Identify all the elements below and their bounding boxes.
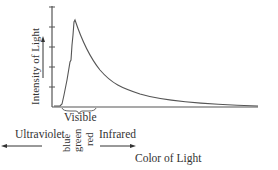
y-arrow-icon	[41, 36, 45, 78]
color-label-red: red	[84, 133, 95, 146]
infrared-arrow-icon	[100, 144, 136, 148]
ultraviolet-label: Ultraviolet	[15, 128, 65, 140]
y-axis-label: Intensity of Light	[29, 28, 41, 105]
intensity-curve	[54, 20, 258, 106]
visible-label: Visible	[64, 111, 97, 123]
x-axis-label: Color of Light	[135, 152, 201, 164]
infrared-label: Infrared	[99, 128, 136, 140]
diagram-graphics	[0, 0, 278, 170]
spectrum-diagram: Intensity of Light Visible Ultraviolet b…	[0, 0, 278, 170]
color-label-blue: blue	[61, 134, 72, 152]
color-label-green: green	[72, 129, 83, 152]
ultraviolet-arrow-icon	[1, 144, 42, 148]
